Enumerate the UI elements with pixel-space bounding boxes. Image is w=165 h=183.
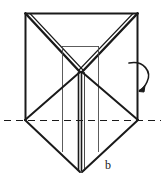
- crease-upper-left-outer: [26, 14, 80, 72]
- origami-fold-diagram: [0, 0, 165, 183]
- center-spine-group: [79, 72, 85, 171]
- rotation-arrow-head: [139, 86, 145, 93]
- diamond-lower-left-edge: [25, 120, 80, 172]
- upper-v-crease-group: [26, 14, 137, 73]
- rotation-arrow-curve: [129, 63, 148, 91]
- crease-upper-right-inner: [79, 14, 133, 71]
- crease-upper-left-inner: [30, 14, 83, 71]
- rotation-arrow-group: [129, 63, 148, 92]
- diamond-upper-left-edge: [25, 72, 80, 120]
- origami-figure-container: b: [0, 0, 165, 183]
- inner-panel-group: [62, 46, 99, 152]
- figure-caption-label-b: b: [105, 159, 111, 171]
- diamond-upper-right-edge: [82, 72, 138, 120]
